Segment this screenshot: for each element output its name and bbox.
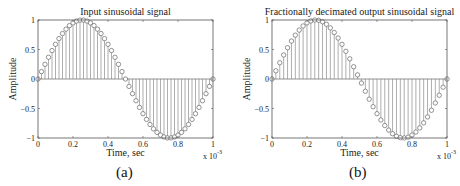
panel-a-marker [116, 62, 120, 66]
panel-b-x-tick-label: 0 [270, 140, 274, 149]
panel-a-marker [106, 42, 110, 46]
panel-b-marker [441, 85, 445, 89]
panel-a-marker [141, 111, 145, 115]
panel-a-marker [92, 23, 96, 27]
panel-b-marker [437, 93, 441, 97]
panel-b-marker [348, 57, 352, 61]
panel-a-y-axis-label: Amplitude [7, 57, 18, 100]
panel-a-y-tick-label: 1 [31, 16, 35, 25]
panel-b-y-axis-label: Amplitude [241, 57, 252, 100]
panel-b-x-tick-label: 0.2 [302, 140, 312, 149]
panel-a-marker [186, 122, 190, 126]
panel-b-y-tick-label: 0.5 [259, 46, 269, 55]
panel-a-marker [127, 84, 131, 88]
panel-b-marker [433, 101, 437, 105]
panel-a-marker [190, 117, 194, 121]
panel-a-marker [193, 111, 197, 115]
panel-a-marker [197, 105, 201, 109]
panel-a-marker [50, 48, 54, 52]
panel-a-marker [183, 127, 187, 131]
panel-b-x-tick-label: 0.4 [337, 140, 347, 149]
panel-a-marker [137, 105, 141, 109]
panel-b-x-tick-label: 0.8 [407, 140, 417, 149]
figure: Input sinusoidal signalAmplitudeTime, se… [0, 0, 460, 186]
panel-a-y-tick-label: −0.5 [20, 105, 35, 114]
panel-a-marker [43, 62, 47, 66]
panel-b-y-tick-label: 0 [265, 75, 269, 84]
panel-b-marker [386, 128, 390, 132]
panel-b-marker [359, 81, 363, 85]
panel-a-marker [95, 27, 99, 31]
panel-b-marker [278, 61, 282, 65]
panel-b-marker [367, 97, 371, 101]
panel-b-y-tick-label: −1 [260, 134, 269, 143]
panel-b-x-tick-label: 1 [445, 140, 449, 149]
panel-b-marker [297, 28, 301, 32]
panel-a-x-tick-label: 1 [211, 140, 215, 149]
panel-a-marker [207, 84, 211, 88]
panel-a-x-tick-label: 0.8 [173, 140, 183, 149]
panel-b-marker [371, 104, 375, 108]
panel-a-x-tick-label: 0.4 [103, 140, 113, 149]
panel-a-x-multiplier: x 10 [203, 152, 217, 161]
panel-a-marker [39, 69, 43, 73]
panel-b-y-tick-label: 1 [265, 16, 269, 25]
panel-b-marker [421, 121, 425, 125]
panel-b-marker [340, 42, 344, 46]
panel-a-marker [60, 31, 64, 35]
panel-b-x-multiplier-exponent: -3 [451, 149, 456, 155]
panel-a-x-multiplier-exponent: -3 [217, 149, 222, 155]
panel-b-marker [293, 33, 297, 37]
panel-a-marker [179, 130, 183, 134]
panel-b-y-tick-label: −0.5 [254, 105, 269, 114]
panel-b-marker [429, 108, 433, 112]
panel-a-marker [53, 42, 57, 46]
panel-a-title: Input sinusoidal signal [80, 6, 171, 17]
panel-b-marker [344, 49, 348, 53]
panel-a-marker [144, 117, 148, 121]
panel-b-title: Fractionally decimated output sinusoidal… [265, 6, 455, 17]
panel-a-marker [46, 55, 50, 59]
panel-b-marker [375, 111, 379, 115]
panel-a-marker [64, 27, 68, 31]
panel-a-marker [200, 99, 204, 103]
panel-a-marker [151, 127, 155, 131]
panel-b-x-tick-label: 0.6 [372, 140, 382, 149]
panel-a-y-tick-label: 0 [31, 75, 35, 84]
panel-a-x-tick-label: 0.6 [138, 140, 148, 149]
panel-b-marker [414, 130, 418, 134]
caption-b: (b) [349, 164, 367, 181]
panel-a-marker [57, 36, 61, 40]
panel-b-marker [355, 73, 359, 77]
panel-b-marker [336, 36, 340, 40]
panel-b-marker [289, 39, 293, 43]
panel-b-marker [324, 22, 328, 26]
panel-a-y-tick-label: 0.5 [25, 46, 35, 55]
panel-b-marker [328, 26, 332, 30]
panel-b-x-multiplier: x 10 [437, 152, 451, 161]
panel-b-marker [281, 53, 285, 57]
panel-b-marker [301, 24, 305, 28]
panel-b-marker [351, 65, 355, 69]
panel-a-y-tick-label: −1 [26, 134, 35, 143]
panel-b-marker [332, 30, 336, 34]
panel-b-marker [285, 46, 289, 50]
panel-a-marker [99, 31, 103, 35]
panel-a-x-tick-label: 0 [36, 140, 40, 149]
panel-a-marker [120, 69, 124, 73]
panel-b-marker [363, 89, 367, 93]
panel-b-marker [383, 123, 387, 127]
panel-a-marker [102, 36, 106, 40]
panel-a-marker [109, 48, 113, 52]
panel-a-marker [134, 99, 138, 103]
caption-a: (a) [116, 164, 133, 181]
panel-a-marker [204, 91, 208, 95]
panel-a-marker [123, 77, 127, 81]
panel-b-marker [425, 115, 429, 119]
panel-b-marker [274, 69, 278, 73]
panel-b-marker [390, 132, 394, 136]
panel-a-x-tick-label: 0.2 [68, 140, 78, 149]
panel-a-marker [130, 91, 134, 95]
panel-a-marker [148, 122, 152, 126]
panel-b-marker [379, 118, 383, 122]
